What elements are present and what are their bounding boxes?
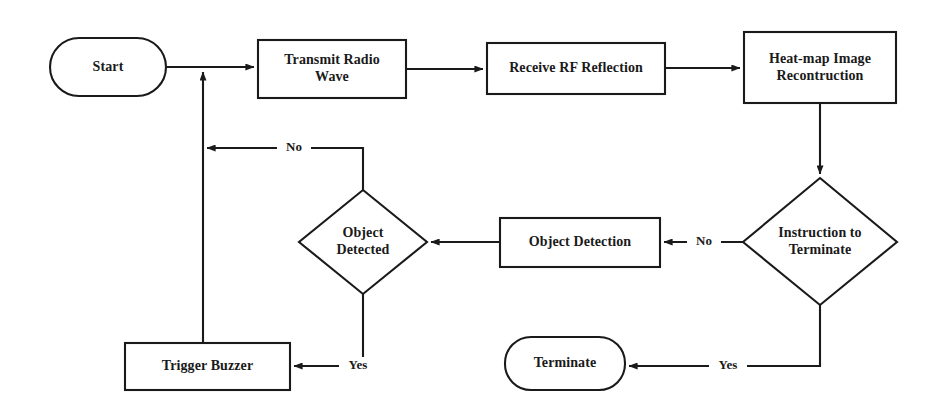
node-heatmap-shape (744, 32, 896, 103)
edge-detected-yes-to-buzzer (294, 294, 363, 366)
flowchart-diagram: Start Transmit Radio Wave Receive RF Ref… (0, 0, 943, 416)
node-start-shape (50, 38, 166, 96)
edge-instruction-yes-to-terminate (629, 305, 820, 366)
node-buzzer-shape (125, 343, 290, 390)
node-instruction-shape (743, 178, 897, 305)
flowchart-svg (0, 0, 943, 416)
node-detected-shape (299, 190, 427, 294)
edge-detected-no-to-loop (207, 148, 363, 190)
node-transmit-shape (258, 40, 406, 98)
node-receive-shape (487, 43, 665, 94)
node-terminate-shape (505, 337, 625, 390)
node-detection-shape (500, 218, 660, 267)
